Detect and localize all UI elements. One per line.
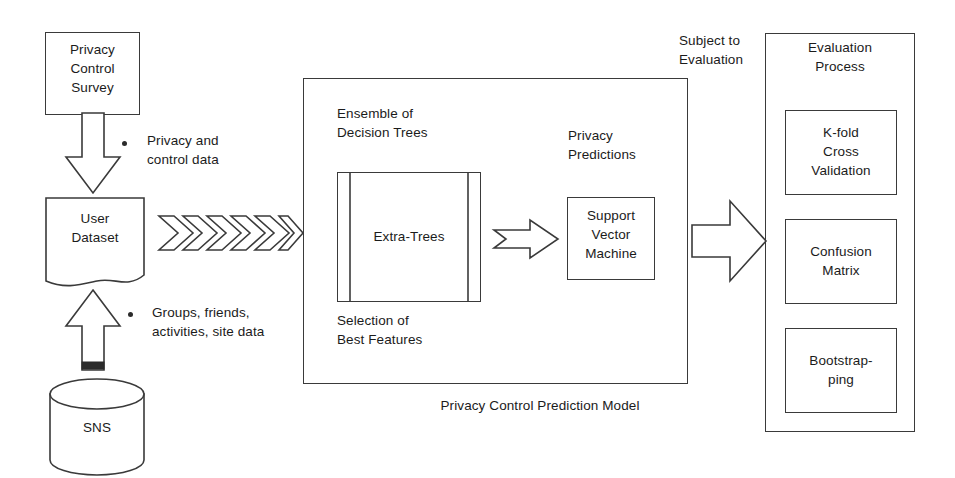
right-block-arrow-small [492, 218, 560, 260]
subject-to-evaluation-label: Subject to Evaluation [679, 31, 771, 69]
right-block-arrow-large [690, 199, 768, 283]
privacy-predictions-label: Privacy Predictions [568, 126, 688, 164]
support-vector-machine-label: Support Vector Machine [567, 206, 655, 263]
down-block-arrow [62, 113, 124, 195]
selection-of-best-features-label: Selection of Best Features [337, 311, 527, 349]
model-caption: Privacy Control Prediction Model [390, 396, 690, 415]
confusion-matrix-label: Confusion Matrix [785, 242, 897, 280]
sns-label: SNS [48, 418, 146, 437]
evaluation-process-title: Evaluation Process [765, 38, 915, 76]
dataset-bullet-marker [128, 312, 133, 317]
data-flow-chevrons [157, 212, 305, 254]
k-fold-cross-validation-label: K-fold Cross Validation [785, 123, 897, 180]
up-block-arrow [62, 288, 124, 372]
extra-trees-label: Extra-Trees [337, 227, 481, 246]
privacy-control-survey-label: Privacy Control Survey [45, 40, 140, 97]
survey-bullet-marker [122, 141, 127, 146]
survey-bullet-text: Privacy and control data [147, 131, 327, 169]
diagram-canvas: Privacy Control Survey Privacy and contr… [0, 0, 955, 478]
ensemble-of-decision-trees-label: Ensemble of Decision Trees [337, 104, 527, 142]
bootstrapping-label: Bootstrap- ping [785, 351, 897, 389]
user-dataset-label: User Dataset [45, 209, 145, 247]
